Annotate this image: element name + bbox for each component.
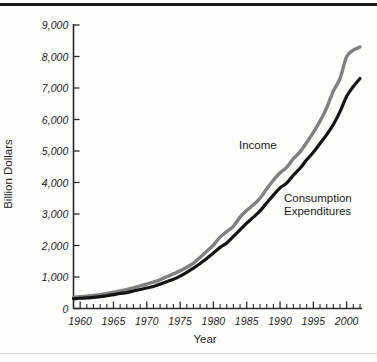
y-axis-tick-label: 1,000 xyxy=(12,271,69,283)
x-axis-tick-label: 1990 xyxy=(268,315,292,327)
y-axis-tick-label: 2,000 xyxy=(12,240,69,252)
x-axis-tick-label: 1985 xyxy=(235,315,259,327)
chart-axes xyxy=(74,24,363,309)
y-axis-tick-label: 0 xyxy=(12,303,69,315)
y-axis-tick-label: 8,000 xyxy=(12,51,69,63)
y-axis-title: Billion Dollars xyxy=(2,139,14,209)
series-label-consumption: Consumption Expenditures xyxy=(284,192,352,218)
x-axis-tick-label: 1995 xyxy=(301,315,325,327)
chart-figure: 01,0002,0003,0004,0005,0006,0007,0008,00… xyxy=(0,0,377,362)
y-axis-tick-label: 6,000 xyxy=(12,114,69,126)
x-axis-tick-label: 2000 xyxy=(335,315,359,327)
y-axis-tick-label: 4,000 xyxy=(12,177,69,189)
x-axis-tick-label: 1975 xyxy=(168,315,192,327)
series-label-consumption-line2: Expenditures xyxy=(284,205,352,218)
x-axis-tick-label: 1980 xyxy=(202,315,226,327)
y-axis-tick-label: 7,000 xyxy=(12,82,69,94)
x-axis-tick-label: 1970 xyxy=(135,315,159,327)
x-axis-title: Year xyxy=(193,333,216,345)
series-line-consumption xyxy=(74,79,361,299)
x-axis-tick-label: 1960 xyxy=(68,315,92,327)
y-axis-tick-label: 3,000 xyxy=(12,208,69,220)
series-label-consumption-line1: Consumption xyxy=(284,192,352,205)
chart-series xyxy=(74,47,361,299)
x-axis-tick-label: 1965 xyxy=(102,315,126,327)
chart-ticks xyxy=(74,25,361,309)
series-line-income xyxy=(74,47,361,297)
series-label-income: Income xyxy=(239,139,277,152)
y-axis-tick-label: 9,000 xyxy=(12,19,69,31)
y-axis-tick-label: 5,000 xyxy=(12,145,69,157)
